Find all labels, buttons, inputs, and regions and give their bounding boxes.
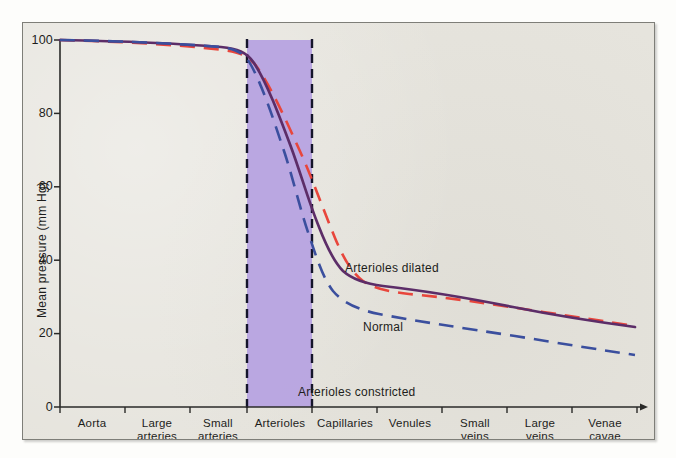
series-path-arterioles-constricted	[60, 40, 635, 355]
y-axis-ticks	[54, 40, 60, 407]
x-tick-line1: Venae	[566, 417, 644, 430]
y-tick-label-0: 0	[22, 400, 53, 414]
x-tick-line2: arteries	[179, 430, 257, 440]
annotation-arterioles-constricted: Arterioles constricted	[298, 385, 416, 399]
x-tick-line2: cavae	[566, 430, 644, 440]
chart-figure-frame: 100 80 60 40 20 0 Mean pressure (mm Hg) …	[22, 22, 655, 440]
y-tick-label-100: 100	[22, 33, 53, 47]
x-axis-arrow	[640, 404, 648, 411]
x-tick-label-venae-cavae: Venae cavae	[566, 417, 644, 440]
x-axis-ticks	[60, 407, 637, 413]
y-tick-label-20: 20	[22, 326, 53, 340]
arterioles-highlight-band	[247, 40, 312, 407]
series-path-arterioles-dilated	[60, 40, 635, 326]
series-path-normal	[60, 40, 635, 327]
annotation-normal: Normal	[363, 320, 403, 334]
annotation-arterioles-dilated: Arterioles dilated	[345, 261, 439, 275]
pressure-curves-plot	[23, 23, 654, 438]
y-axis-title: Mean pressure (mm Hg)	[35, 182, 49, 318]
figure-root: 100 80 60 40 20 0 Mean pressure (mm Hg) …	[0, 0, 676, 458]
y-tick-label-80: 80	[22, 106, 53, 120]
